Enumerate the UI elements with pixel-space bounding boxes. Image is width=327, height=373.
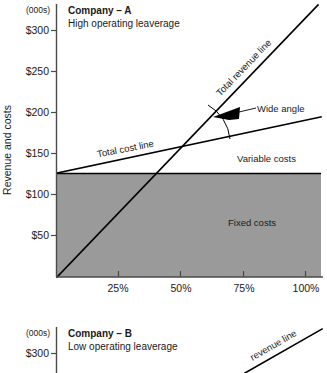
panel-b-y-tick-label-300: $300 — [26, 347, 50, 359]
y-tick-label-250: $250 — [26, 65, 50, 77]
y-tick-label-50: $50 — [31, 229, 49, 241]
wide-angle-arrow-icon — [213, 107, 240, 120]
panel-b-y-axis-units-label: (000s) — [26, 328, 50, 338]
x-tick-label-50: 50% — [170, 282, 191, 294]
panel-b-title: Company – B — [68, 328, 132, 339]
x-tick-label-75: 75% — [233, 282, 254, 294]
cvp-chart-figure: (000s) $300 $250 $200 $150 $100 $50 25% … — [0, 0, 327, 373]
fixed-costs-label: Fixed costs — [228, 217, 276, 228]
y-axis-units-label: (000s) — [26, 5, 50, 15]
total-revenue-line-label: Total revenue line — [214, 37, 274, 98]
panel-a: (000s) $300 $250 $200 $150 $100 $50 25% … — [1, 4, 323, 294]
wide-angle-arc — [208, 105, 230, 139]
variable-costs-label: Variable costs — [237, 153, 296, 164]
panel-a-title: Company – A — [68, 5, 132, 16]
wide-angle-label: Wide angle — [257, 103, 305, 114]
y-tick-label-150: $150 — [26, 147, 50, 159]
panel-a-subtitle: High operating leaverage — [68, 18, 180, 29]
wide-angle-leader-line — [239, 108, 256, 112]
y-tick-label-200: $200 — [26, 106, 50, 118]
x-tick-label-100: 100% — [293, 282, 320, 294]
fixed-costs-area — [57, 174, 321, 278]
panel-b-subtitle: Low operating leaverage — [68, 341, 178, 352]
y-tick-label-300: $300 — [26, 24, 50, 36]
total-cost-line-label: Total cost line — [96, 138, 155, 160]
figure-canvas: (000s) $300 $250 $200 $150 $100 $50 25% … — [0, 0, 327, 373]
y-axis-title: Revenue and costs — [1, 105, 13, 195]
total-cost-line — [57, 117, 321, 173]
y-tick-label-100: $100 — [26, 188, 50, 200]
panel-b: (000s) $300 Company – B Low operating le… — [26, 327, 322, 373]
x-tick-label-25: 25% — [107, 282, 128, 294]
